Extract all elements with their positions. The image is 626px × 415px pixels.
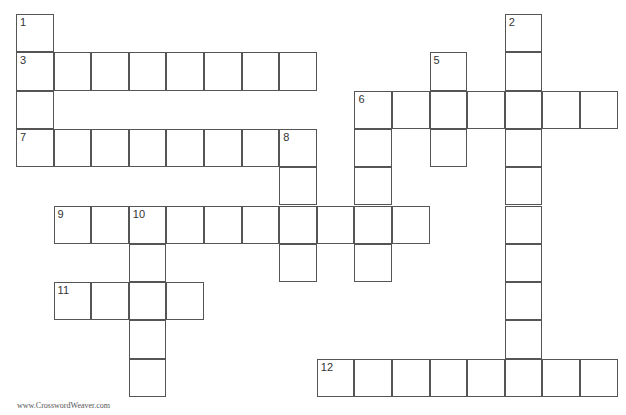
grid-cell[interactable] bbox=[129, 129, 167, 167]
clue-number: 7 bbox=[20, 131, 26, 143]
clue-number: 8 bbox=[283, 131, 289, 143]
grid-cell[interactable] bbox=[354, 244, 392, 282]
grid-cell[interactable] bbox=[91, 206, 129, 244]
clue-number: 3 bbox=[20, 54, 26, 66]
grid-cell[interactable] bbox=[392, 91, 430, 129]
grid-cell[interactable]: 11 bbox=[54, 282, 92, 320]
grid-cell[interactable] bbox=[54, 52, 92, 90]
grid-cell[interactable] bbox=[279, 52, 317, 90]
clue-number: 5 bbox=[434, 54, 440, 66]
grid-cell[interactable] bbox=[204, 129, 242, 167]
grid-cell[interactable]: 5 bbox=[430, 52, 468, 90]
grid-cell[interactable] bbox=[505, 91, 543, 129]
grid-cell[interactable] bbox=[279, 206, 317, 244]
grid-cell[interactable] bbox=[392, 206, 430, 244]
grid-cell[interactable] bbox=[166, 206, 204, 244]
grid-cell[interactable] bbox=[242, 206, 280, 244]
grid-cell[interactable] bbox=[279, 167, 317, 205]
grid-cell[interactable]: 6 bbox=[354, 91, 392, 129]
grid-cell[interactable] bbox=[430, 359, 468, 397]
grid-cell[interactable] bbox=[242, 129, 280, 167]
grid-cell[interactable] bbox=[505, 129, 543, 167]
grid-cell[interactable] bbox=[467, 91, 505, 129]
grid-cell[interactable] bbox=[542, 91, 580, 129]
grid-cell[interactable] bbox=[505, 320, 543, 358]
grid-cell[interactable] bbox=[354, 206, 392, 244]
grid-cell[interactable] bbox=[279, 244, 317, 282]
grid-cell[interactable] bbox=[505, 167, 543, 205]
grid-cell[interactable] bbox=[467, 359, 505, 397]
footer-credit: www.CrosswordWeaver.com bbox=[17, 401, 110, 410]
grid-cell[interactable] bbox=[129, 320, 167, 358]
crossword-grid: 13726589101112 bbox=[0, 0, 626, 415]
clue-number: 12 bbox=[321, 361, 333, 373]
grid-cell[interactable] bbox=[542, 359, 580, 397]
grid-cell[interactable] bbox=[54, 129, 92, 167]
grid-cell[interactable] bbox=[204, 206, 242, 244]
grid-cell[interactable] bbox=[129, 52, 167, 90]
grid-cell[interactable] bbox=[505, 244, 543, 282]
grid-cell[interactable] bbox=[129, 244, 167, 282]
grid-cell[interactable] bbox=[166, 129, 204, 167]
grid-cell[interactable] bbox=[505, 206, 543, 244]
grid-cell[interactable]: 10 bbox=[129, 206, 167, 244]
grid-cell[interactable] bbox=[505, 282, 543, 320]
grid-cell[interactable] bbox=[317, 206, 355, 244]
grid-cell[interactable] bbox=[392, 359, 430, 397]
grid-cell[interactable] bbox=[354, 167, 392, 205]
clue-number: 1 bbox=[20, 16, 26, 28]
grid-cell[interactable] bbox=[91, 282, 129, 320]
clue-number: 6 bbox=[358, 93, 364, 105]
grid-cell[interactable] bbox=[166, 52, 204, 90]
grid-cell[interactable]: 7 bbox=[16, 129, 54, 167]
grid-cell[interactable] bbox=[91, 52, 129, 90]
grid-cell[interactable] bbox=[166, 282, 204, 320]
grid-cell[interactable] bbox=[354, 359, 392, 397]
clue-number: 10 bbox=[133, 208, 145, 220]
grid-cell[interactable] bbox=[91, 129, 129, 167]
grid-cell[interactable]: 9 bbox=[54, 206, 92, 244]
grid-cell[interactable] bbox=[129, 359, 167, 397]
grid-cell[interactable] bbox=[505, 52, 543, 90]
grid-cell[interactable]: 2 bbox=[505, 14, 543, 52]
grid-cell[interactable]: 1 bbox=[16, 14, 54, 52]
grid-cell[interactable] bbox=[354, 129, 392, 167]
grid-cell[interactable] bbox=[580, 359, 618, 397]
grid-cell[interactable] bbox=[580, 91, 618, 129]
grid-cell[interactable] bbox=[505, 359, 543, 397]
grid-cell[interactable]: 12 bbox=[317, 359, 355, 397]
grid-cell[interactable] bbox=[16, 91, 54, 129]
grid-cell[interactable]: 3 bbox=[16, 52, 54, 90]
grid-cell[interactable] bbox=[430, 129, 468, 167]
clue-number: 9 bbox=[58, 208, 64, 220]
grid-cell[interactable] bbox=[242, 52, 280, 90]
grid-cell[interactable] bbox=[129, 282, 167, 320]
grid-cell[interactable] bbox=[430, 91, 468, 129]
grid-cell[interactable] bbox=[204, 52, 242, 90]
grid-cell[interactable]: 8 bbox=[279, 129, 317, 167]
clue-number: 11 bbox=[58, 284, 69, 296]
clue-number: 2 bbox=[509, 16, 515, 28]
